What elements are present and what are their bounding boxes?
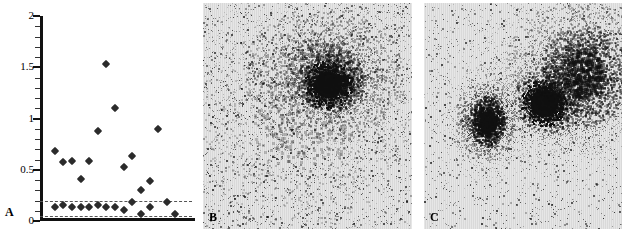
y-tick-major (33, 15, 40, 17)
panel-a-label: A (5, 205, 14, 220)
y-tick-minor (35, 26, 40, 27)
scatter-point (128, 197, 136, 205)
y-tick-minor (35, 180, 40, 181)
scatter-point (85, 156, 93, 164)
panel-b-label: B (209, 210, 217, 225)
scatter-point (102, 60, 110, 68)
scatter-point (85, 202, 93, 210)
scatter-point (94, 127, 102, 135)
x-axis-line (40, 218, 195, 221)
scatter-point (68, 156, 76, 164)
scatter-point (94, 200, 102, 208)
y-tick-label: 2 (8, 10, 34, 21)
scatter-point (111, 104, 119, 112)
scatter-point (137, 186, 145, 194)
threshold-line-lower-threshold (40, 216, 192, 217)
scatter-point (145, 202, 153, 210)
scintigram-image-c (424, 3, 622, 229)
y-tick-minor (35, 88, 40, 89)
y-tick-minor (35, 47, 40, 48)
scatter-point (154, 125, 162, 133)
y-tick-minor (35, 149, 40, 150)
y-tick-minor (35, 190, 40, 191)
scatter-point (128, 152, 136, 160)
y-tick-minor (35, 211, 40, 212)
y-tick-minor (35, 37, 40, 38)
scatter-point (76, 202, 84, 210)
scatter-point (119, 162, 127, 170)
scatter-point (102, 202, 110, 210)
y-tick-major (33, 66, 40, 68)
y-tick-major (33, 169, 40, 171)
scatter-point (163, 197, 171, 205)
y-axis-line (40, 16, 43, 221)
y-tick-minor (35, 108, 40, 109)
scatter-point (119, 205, 127, 213)
panel-a-scatter-plot: 00.511.52 A (0, 0, 200, 232)
y-tick-major (33, 220, 40, 222)
scatter-point (145, 177, 153, 185)
scatter-point (59, 157, 67, 165)
scatter-point (111, 202, 119, 210)
y-tick-label: 0.5 (8, 164, 34, 175)
panel-c-scintigram: C (424, 3, 622, 229)
scatter-point (68, 202, 76, 210)
y-tick-minor (35, 78, 40, 79)
y-tick-label: 1.5 (8, 61, 34, 72)
y-tick-minor (35, 139, 40, 140)
figure-container: 00.511.52 A B C (0, 0, 624, 232)
y-tick-minor (35, 129, 40, 130)
y-tick-minor (35, 57, 40, 58)
panel-b-scintigram: B (203, 3, 412, 229)
y-tick-major (33, 118, 40, 120)
scatter-point (59, 200, 67, 208)
scatter-point (76, 175, 84, 183)
panel-c-label: C (430, 210, 439, 225)
y-tick-minor (35, 98, 40, 99)
scatter-point (50, 147, 58, 155)
y-tick-minor (35, 160, 40, 161)
scintigram-image-b (203, 3, 412, 229)
scatter-point (50, 202, 58, 210)
y-tick-label: 1 (8, 113, 34, 124)
